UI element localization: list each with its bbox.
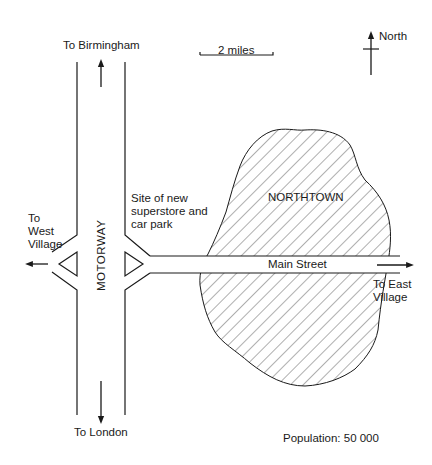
compass-label: North xyxy=(379,29,407,43)
motorway-label: MOTORWAY xyxy=(95,229,107,291)
map-canvas xyxy=(0,0,432,465)
site-label-line3: car park xyxy=(131,217,173,231)
main-street-label: Main Street xyxy=(268,257,327,271)
west-junction-island xyxy=(59,252,77,276)
site-label-line2: superstore and xyxy=(131,204,208,218)
population-label: Population: 50 000 xyxy=(283,431,379,445)
site-label-line1: Site of new xyxy=(131,191,188,205)
town-name: NORTHTOWN xyxy=(268,190,344,204)
destination-west-line1: To xyxy=(28,211,40,225)
destination-west-line3: Village xyxy=(28,237,62,251)
destination-east-line1: To East xyxy=(373,277,411,291)
destination-birmingham: To Birmingham xyxy=(63,38,140,52)
east-junction-island xyxy=(125,252,143,276)
destination-london: To London xyxy=(74,425,128,439)
motorway-left-edge xyxy=(52,62,77,252)
scale-label: 2 miles xyxy=(218,43,254,57)
destination-west-line2: West xyxy=(28,224,54,238)
destination-east-line2: Village xyxy=(373,290,407,304)
